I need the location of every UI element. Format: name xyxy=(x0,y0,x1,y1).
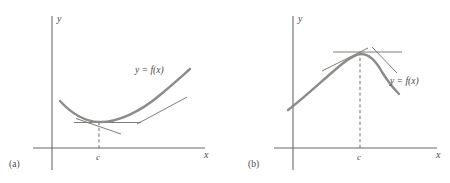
panel-b: y x y = f(x) c (b) xyxy=(225,0,450,183)
panel-a-curve xyxy=(60,69,190,122)
panel-a-y-axis-label: y xyxy=(57,14,61,24)
panel-b-left-tangent xyxy=(322,48,368,71)
figure-container: y x y = f(x) c (a) y x y = f(x) c xyxy=(0,0,450,183)
panel-a-right-tangent xyxy=(137,97,187,124)
panel-b-curve xyxy=(288,54,399,110)
panel-a-x-axis-label: x xyxy=(204,150,208,160)
panel-b-x-axis-label: x xyxy=(436,150,440,160)
panel-b-caption: (b) xyxy=(248,160,259,170)
panel-a-critical-value-label: c xyxy=(96,153,100,162)
panel-b-critical-value-label: c xyxy=(357,153,361,162)
panel-a-caption: (a) xyxy=(9,160,20,170)
panel-b-function-label: y = f(x) xyxy=(390,77,419,87)
panel-b-graph xyxy=(225,0,450,183)
panel-b-right-tangent xyxy=(372,47,397,73)
panel-a: y x y = f(x) c (a) xyxy=(0,0,225,183)
panel-b-y-axis-label: y xyxy=(298,14,302,24)
panel-a-graph xyxy=(0,0,225,183)
panel-a-function-label: y = f(x) xyxy=(135,66,164,76)
